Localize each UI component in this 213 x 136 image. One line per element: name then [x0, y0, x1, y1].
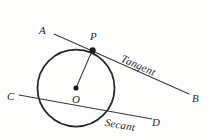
point-label-c: C [7, 91, 14, 102]
center-label-o: O [72, 94, 80, 105]
point-label-a: A [39, 25, 46, 36]
point-label-d: D [152, 117, 160, 128]
tangency-point-dot [90, 47, 96, 53]
center-point-dot [73, 85, 78, 90]
point-label-p: P [90, 31, 97, 42]
secant-line [19, 95, 152, 119]
radius-line-op [76, 51, 92, 88]
point-label-b: B [192, 93, 199, 104]
geometry-figure: A P B C D O Tangent Secant [0, 0, 213, 136]
